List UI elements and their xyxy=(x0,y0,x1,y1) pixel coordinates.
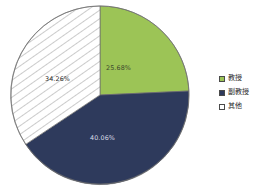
legend-label-other: 其他 xyxy=(228,102,242,111)
legend-item-professor[interactable]: 教授 xyxy=(219,72,267,85)
chart-legend: 教授 副教授 其他 xyxy=(219,72,267,114)
legend-swatch-other-icon xyxy=(219,104,225,110)
legend-swatch-associate-professor-icon xyxy=(219,90,225,96)
legend-item-associate-professor[interactable]: 副教授 xyxy=(219,86,267,99)
legend-swatch-professor-icon xyxy=(219,76,225,82)
pie-chart-svg xyxy=(10,4,190,186)
pie-slice-professor[interactable] xyxy=(100,6,189,95)
legend-label-professor: 教授 xyxy=(228,74,242,83)
legend-label-associate-professor: 副教授 xyxy=(228,88,249,97)
legend-item-other[interactable]: 其他 xyxy=(219,100,267,113)
